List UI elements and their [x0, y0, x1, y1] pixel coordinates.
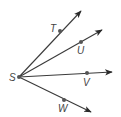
point-u — [79, 40, 83, 44]
point-t — [58, 29, 62, 33]
ray-st — [19, 11, 81, 77]
ray-sw — [19, 77, 91, 112]
vertex-label-s: S — [9, 72, 16, 83]
point-w — [62, 98, 66, 102]
point-label-v: V — [83, 77, 91, 88]
rays-diagram: S TUVW — [0, 0, 121, 117]
vertex-point-s — [17, 75, 21, 79]
rays — [19, 11, 112, 112]
labels: S TUVW — [9, 23, 91, 114]
point-v — [85, 71, 89, 75]
point-label-w: W — [58, 103, 69, 114]
ray-sv — [19, 72, 112, 77]
point-label-t: T — [50, 23, 57, 34]
ray-su — [19, 30, 102, 77]
points — [17, 29, 89, 102]
point-label-u: U — [77, 45, 85, 56]
